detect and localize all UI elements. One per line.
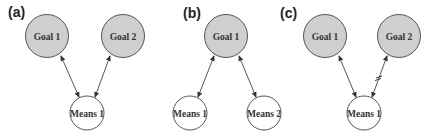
node-label: Goal 1	[213, 32, 240, 42]
node-label: Means 1	[173, 109, 207, 119]
edge-a-goal1-means1	[61, 56, 79, 97]
node-c-goal2: Goal 2	[378, 15, 421, 58]
node-label: Goal 1	[34, 32, 61, 42]
node-b-goal1: Goal 1	[205, 15, 248, 58]
node-label: Goal 2	[110, 32, 137, 42]
edge-b-goal1-means2	[239, 56, 256, 97]
node-c-goal1: Goal 1	[304, 15, 347, 58]
node-label: Goal 1	[312, 32, 339, 42]
node-b-means1: Means 1	[173, 96, 207, 130]
node-a-goal1: Goal 1	[26, 15, 69, 58]
edge-a-goal2-means1	[95, 56, 110, 97]
panel-b: Goal 1 Means 1 Means 2	[173, 15, 281, 131]
diagram-canvas: Goal 1 Goal 2 Means 1 Goal 1 Means 1 Mea…	[0, 0, 433, 139]
node-b-means2: Means 2	[247, 96, 281, 130]
panel-c: Goal 1 Goal 2 Means 1	[304, 15, 421, 131]
edge-c-goal1-means1	[339, 56, 356, 97]
node-a-means1: Means 1	[70, 96, 104, 130]
node-label: Means 1	[70, 109, 104, 119]
node-label: Means 2	[247, 109, 281, 119]
edge-b-goal1-means1	[198, 56, 214, 97]
node-a-goal2: Goal 2	[102, 15, 145, 58]
node-label: Means 1	[347, 109, 381, 119]
panel-a: Goal 1 Goal 2 Means 1	[26, 15, 145, 131]
node-label: Goal 2	[386, 32, 413, 42]
node-c-means1: Means 1	[347, 96, 381, 130]
